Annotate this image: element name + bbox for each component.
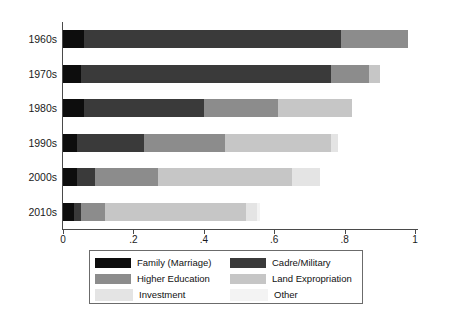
bar-segment: [95, 168, 158, 186]
bar-segment: [246, 203, 257, 221]
legend-entry: Higher Education: [95, 271, 225, 286]
y-axis-tick-label: 1980s: [28, 102, 57, 114]
legend-label: Investment: [139, 290, 185, 300]
legend-entry: Other: [230, 287, 360, 302]
x-axis-tick-label: 1: [412, 234, 418, 245]
bar-segment: [63, 30, 84, 48]
bar-segment: [105, 203, 246, 221]
bar-segment: [292, 168, 320, 186]
chart-figure: 1960s1970s1980s1990s2000s2010s 0.2.4.6.8…: [0, 0, 452, 330]
legend-entry: Land Expropriation: [230, 271, 360, 286]
bar-segment: [204, 99, 278, 117]
bar-segment: [77, 134, 144, 152]
bar-segment: [84, 30, 341, 48]
bar-segment: [144, 134, 225, 152]
bar-segment: [341, 30, 408, 48]
legend-entry: Cadre/Military: [230, 255, 360, 270]
bar-segment: [81, 65, 331, 83]
bar-segment: [331, 134, 338, 152]
legend-swatch: [95, 289, 133, 301]
chart-legend: Family (Marriage)Higher EducationInvestm…: [89, 250, 363, 304]
bar-segment: [278, 99, 352, 117]
legend-swatch: [95, 258, 131, 268]
legend-swatch: [95, 274, 131, 284]
bar-segment: [63, 203, 74, 221]
legend-label: Other: [274, 290, 298, 300]
legend-label: Family (Marriage): [137, 258, 211, 268]
x-axis-tick-label: .4: [200, 234, 208, 245]
x-axis-tick-label: 0: [60, 234, 66, 245]
bar-segment: [225, 134, 331, 152]
x-axis-tick-label: .8: [340, 234, 348, 245]
bar-segment: [81, 203, 106, 221]
x-axis-line: [62, 229, 418, 230]
legend-label: Higher Education: [137, 274, 210, 284]
legend-column-left: Family (Marriage)Higher EducationInvestm…: [95, 255, 225, 303]
bar-segment: [369, 65, 380, 83]
bar-segment: [63, 134, 77, 152]
bar-segment: [331, 65, 370, 83]
legend-swatch: [230, 258, 266, 268]
bar-segment: [63, 168, 77, 186]
y-axis-tick-label: 2010s: [28, 206, 57, 218]
legend-label: Land Expropriation: [272, 274, 352, 284]
bar-segment: [74, 203, 81, 221]
plot-area: [63, 22, 415, 229]
y-axis-tick-label: 1960s: [28, 33, 57, 45]
x-axis-tick-label: .2: [129, 234, 137, 245]
y-axis-tick-label: 1970s: [28, 68, 57, 80]
bar-segment: [63, 99, 84, 117]
legend-swatch: [230, 274, 266, 284]
x-axis-tick-label: .6: [270, 234, 278, 245]
legend-column-right: Cadre/MilitaryLand ExpropriationOther: [230, 255, 360, 303]
legend-label: Cadre/Military: [272, 258, 331, 268]
legend-entry: Family (Marriage): [95, 255, 225, 270]
y-axis-tick-label: 2000s: [28, 171, 57, 183]
y-axis-tick-label: 1990s: [28, 137, 57, 149]
bar-segment: [63, 65, 81, 83]
bar-segment: [158, 168, 292, 186]
bar-segment: [77, 168, 95, 186]
y-axis-tick-labels: 1960s1970s1980s1990s2000s2010s: [0, 22, 57, 229]
legend-swatch: [230, 289, 268, 301]
bar-segment: [257, 203, 261, 221]
legend-entry: Investment: [95, 287, 225, 302]
bar-segment: [84, 99, 204, 117]
